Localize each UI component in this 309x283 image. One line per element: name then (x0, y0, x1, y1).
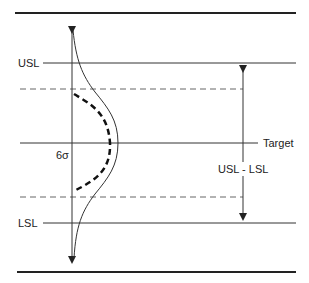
lsl-label: LSL (18, 217, 38, 229)
capability-diagram: USL LSL Target 6σ USL - LSL (0, 0, 309, 283)
six-sigma-label: 6σ (56, 149, 69, 161)
usl-label: USL (18, 57, 39, 69)
spec-width-label: USL - LSL (218, 163, 268, 175)
target-label: Target (263, 137, 294, 149)
